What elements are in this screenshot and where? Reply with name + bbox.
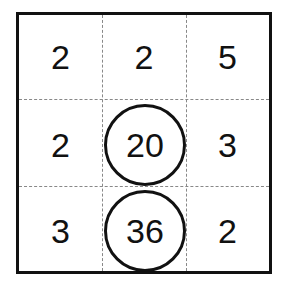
cell-r1-c2: 3 [186,103,269,187]
cell-r1-c1: 20 [102,103,188,187]
cell-r1-c0: 2 [19,103,102,187]
grid-divider-horizontal-1 [19,99,269,100]
cell-r0-c0: 2 [19,15,102,99]
cell-r2-c1: 36 [102,189,188,273]
cell-r0-c2: 5 [186,15,269,99]
cell-r0-c1: 2 [102,15,186,99]
cell-r2-c2: 2 [186,189,269,273]
puzzle-grid: 2 2 5 2 20 3 3 36 2 [16,12,272,274]
cell-r2-c0: 3 [19,189,102,273]
